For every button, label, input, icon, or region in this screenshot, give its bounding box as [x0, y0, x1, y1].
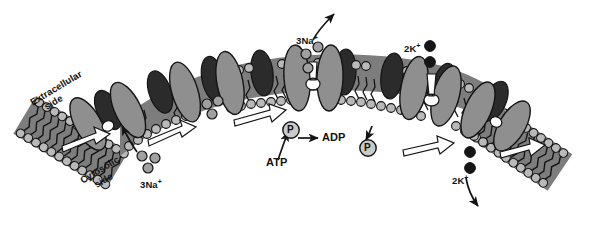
na-in-charge: +	[158, 178, 162, 185]
na-ion-out-3	[303, 63, 313, 73]
na-ion-cyto-1	[137, 151, 147, 161]
k-in-text: 2K	[404, 43, 416, 54]
potassium-cytosolic-label: 2K+	[452, 174, 469, 186]
k-ion-cyto-1	[465, 147, 476, 158]
phosphate-released-label: P	[364, 142, 371, 153]
na-out-text: 3Na	[296, 35, 314, 46]
adp-label: ADP	[322, 131, 346, 143]
sodium-ions-cytosolic	[137, 151, 160, 173]
na-in-text: 3Na	[140, 179, 158, 190]
na-ion-bound-3	[207, 109, 217, 119]
k-out-text: 2K	[452, 175, 464, 186]
conformation-arrow-4	[403, 136, 454, 156]
k-ion-out-2	[425, 57, 436, 68]
potassium-extracellular-label: 2K+	[404, 42, 421, 54]
phosphate-release-arrow	[366, 126, 372, 140]
k-out-charge: +	[464, 174, 468, 181]
sodium-extracellular-label: 3Na+	[296, 34, 318, 46]
k-in-charge: +	[416, 42, 420, 49]
na-ion-cyto-2	[150, 153, 160, 163]
k-ion-cyto-2	[465, 163, 476, 174]
potassium-ions-extracellular	[425, 41, 436, 68]
potassium-ions-cytosolic	[465, 147, 476, 174]
na-ion-cyto-3	[143, 163, 153, 173]
na-out-charge: +	[314, 34, 318, 41]
atp-label: ATP	[266, 156, 287, 168]
pump-step2-subunit-b	[211, 49, 249, 117]
na-ion-bound-2	[213, 96, 223, 106]
k-ion-out-1	[425, 41, 436, 52]
sodium-cytosolic-label: 3Na+	[140, 178, 162, 190]
na-ion-out-1	[301, 49, 311, 59]
na-ion-bound-1	[202, 99, 212, 109]
phosphate-bound-label: P	[287, 124, 294, 135]
